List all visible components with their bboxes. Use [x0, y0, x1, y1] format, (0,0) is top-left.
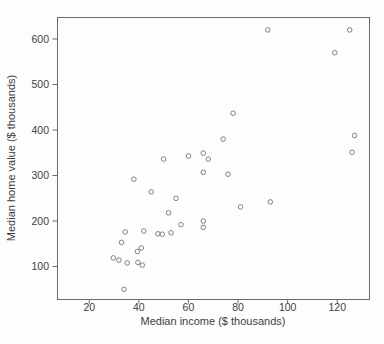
data-point [166, 211, 171, 216]
y-tick-label: 400 [31, 124, 49, 136]
data-point [347, 28, 352, 33]
data-point [238, 205, 243, 210]
x-axis-label: Median income ($ thousands) [141, 315, 286, 327]
data-point [117, 258, 122, 263]
data-point [350, 150, 355, 155]
data-point [179, 222, 184, 227]
data-point [142, 229, 147, 234]
x-tick-label: 20 [83, 301, 95, 313]
data-point [132, 177, 137, 182]
data-point [206, 157, 211, 162]
x-tick-label: 120 [328, 301, 346, 313]
data-point [266, 28, 271, 33]
data-point [231, 111, 236, 116]
data-point [119, 240, 124, 245]
data-point [268, 200, 273, 205]
data-point [226, 172, 231, 177]
data-point [139, 246, 144, 251]
y-tick-label: 200 [31, 215, 49, 227]
x-tick-label: 60 [183, 301, 195, 313]
data-point [333, 50, 338, 55]
x-tick-label: 40 [133, 301, 145, 313]
y-tick-label: 300 [31, 169, 49, 181]
data-point [186, 154, 191, 159]
data-point [201, 219, 206, 224]
data-point [174, 196, 179, 201]
axis-ticks: 20406080100120100200300400500600 [31, 33, 346, 313]
x-tick-label: 80 [232, 301, 244, 313]
data-point [201, 151, 206, 156]
data-point [135, 249, 140, 254]
data-point [201, 225, 206, 230]
data-point [169, 231, 174, 236]
plot-frame-box [58, 18, 370, 300]
data-point [125, 261, 130, 266]
plot-frame [58, 18, 370, 300]
data-point [123, 230, 128, 235]
data-point [122, 287, 127, 292]
data-point [221, 137, 226, 142]
y-tick-label: 600 [31, 33, 49, 45]
y-tick-label: 100 [31, 260, 49, 272]
data-point [111, 256, 116, 261]
y-axis-label: Median home value ($ thousands) [5, 75, 17, 241]
data-points [111, 28, 357, 292]
data-point [352, 133, 357, 138]
data-point [140, 263, 145, 268]
plot-area: 20406080100120100200300400500600 Median … [0, 0, 384, 344]
data-point [149, 190, 154, 195]
data-point [201, 170, 206, 175]
y-tick-label: 500 [31, 78, 49, 90]
scatter-plot-figure: 20406080100120100200300400500600 Median … [0, 0, 384, 344]
data-point [161, 157, 166, 162]
data-point [136, 260, 141, 265]
x-tick-label: 100 [279, 301, 297, 313]
